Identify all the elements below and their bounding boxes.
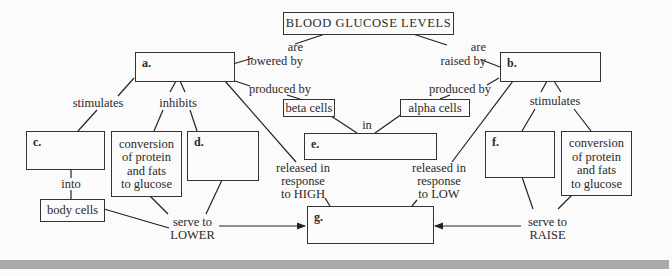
bottom-gray-band: [0, 260, 669, 269]
box-g[interactable]: g.: [307, 206, 434, 244]
box-c[interactable]: c.: [26, 131, 105, 170]
label-stimulates-right: stimulates: [525, 95, 585, 108]
beta-cells-text: beta cells: [286, 102, 333, 115]
box-d[interactable]: d.: [187, 131, 259, 181]
body-cells-box: body cells: [40, 199, 105, 222]
label-produced-by-left: produced by: [240, 83, 320, 96]
label-released-low: released in response to LOW: [404, 162, 474, 201]
label-serve-to-raise: serve to RAISE: [520, 216, 575, 242]
blood-glucose-levels-box: BLOOD GLUCOSE LEVELS: [283, 12, 454, 35]
label-are-raised-by: are raised by: [426, 40, 486, 68]
title-text: BLOOD GLUCOSE LEVELS: [286, 17, 451, 30]
label-in: in: [359, 119, 375, 132]
box-e[interactable]: e.: [304, 133, 437, 160]
box-a[interactable]: a.: [135, 52, 235, 82]
label-stimulates-left: stimulates: [68, 97, 128, 110]
box-a-letter: a.: [142, 57, 151, 70]
conversion-left-text: conversion of protein and fats to glucos…: [119, 138, 174, 192]
box-b[interactable]: b.: [500, 52, 601, 82]
box-f-letter: f.: [492, 136, 499, 149]
alpha-cells-text: alpha cells: [408, 102, 461, 115]
box-c-letter: c.: [33, 136, 41, 149]
label-inhibits: inhibits: [153, 97, 203, 110]
box-d-letter: d.: [194, 136, 204, 149]
alpha-cells-box: alpha cells: [400, 99, 470, 117]
conversion-left-box: conversion of protein and fats to glucos…: [111, 131, 182, 197]
box-e-letter: e.: [311, 138, 319, 151]
conversion-right-box: conversion of protein and fats to glucos…: [561, 131, 632, 196]
label-into: into: [56, 178, 86, 191]
box-g-letter: g.: [314, 211, 323, 224]
box-b-letter: b.: [507, 57, 517, 70]
label-are-lowered-by: are lowered by: [233, 40, 303, 68]
body-cells-text: body cells: [47, 204, 98, 217]
label-produced-by-right: produced by: [420, 83, 500, 96]
conversion-right-text: conversion of protein and fats to glucos…: [569, 137, 624, 191]
label-released-high: released in response to HIGH: [268, 162, 338, 201]
label-serve-to-lower: serve to LOWER: [165, 216, 220, 242]
box-f[interactable]: f.: [485, 131, 555, 178]
beta-cells-box: beta cells: [283, 99, 335, 117]
